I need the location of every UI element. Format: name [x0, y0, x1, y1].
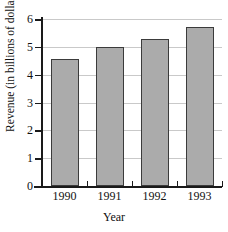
x-tick-separator	[177, 181, 178, 187]
y-tick-label: 1	[22, 152, 33, 164]
bar-1990	[51, 59, 79, 186]
x-tick-label: 1992	[134, 189, 176, 203]
chart-title	[0, 0, 228, 2]
y-tick-mark	[35, 158, 42, 160]
x-tick-label: 1991	[89, 189, 131, 203]
x-axis-title: Year	[0, 210, 228, 224]
x-tick-separator	[132, 181, 133, 187]
y-tick-mark	[35, 19, 42, 21]
y-tick-label: 3	[22, 97, 33, 109]
y-tick-label: 4	[22, 69, 33, 81]
y-tick-label: 6	[22, 13, 33, 25]
y-tick-mark	[35, 103, 42, 105]
x-tick-separator	[222, 181, 223, 187]
plot-area	[42, 19, 222, 186]
y-tick-mark	[35, 186, 42, 188]
y-axis-title: Revenue (in billions of dollars)	[2, 0, 18, 150]
bar-chart-figure: Revenue (in billions of dollars) Year 01…	[0, 0, 228, 232]
gridline	[42, 19, 222, 20]
bar-1991	[96, 47, 124, 186]
bar-1993	[186, 27, 214, 186]
y-tick-label: 5	[22, 41, 33, 53]
y-tick-mark	[35, 47, 42, 49]
y-tick-label: 2	[22, 124, 33, 136]
y-tick-mark	[35, 130, 42, 132]
y-tick-mark	[35, 75, 42, 77]
y-tick-label: 0	[22, 180, 33, 192]
bar-1992	[141, 39, 169, 186]
x-tick-separator	[87, 181, 88, 187]
x-tick-label: 1990	[44, 189, 86, 203]
x-axis-line	[34, 186, 222, 188]
x-tick-label: 1993	[179, 189, 221, 203]
